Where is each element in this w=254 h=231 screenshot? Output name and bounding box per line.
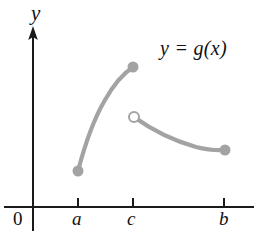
y-axis-label: y xyxy=(31,3,40,24)
graph-canvas xyxy=(0,0,254,231)
x-tick-label-a: a xyxy=(72,209,82,228)
origin-label: 0 xyxy=(13,209,23,228)
point-filled-at-a xyxy=(73,166,84,177)
function-graph-figure: y 0 a c b y = g(x) xyxy=(0,0,254,231)
x-tick-label-c: c xyxy=(127,209,135,228)
curve-right-branch xyxy=(134,117,225,150)
curve-left-branch xyxy=(78,67,133,171)
point-filled-peak-at-c xyxy=(128,62,139,73)
curve-equation-label: y = g(x) xyxy=(160,38,227,58)
x-tick-label-b: b xyxy=(219,209,229,228)
point-filled-at-b xyxy=(220,145,231,156)
point-open-at-c xyxy=(129,112,139,122)
